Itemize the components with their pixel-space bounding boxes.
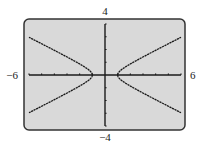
y-max-label: 4 (102, 5, 108, 17)
x-max-label: 6 (190, 69, 196, 81)
x-min-label: −6 (6, 69, 18, 81)
hyperbola-chart: 4 −4 −6 6 (0, 0, 199, 145)
y-min-label: −4 (99, 131, 111, 143)
